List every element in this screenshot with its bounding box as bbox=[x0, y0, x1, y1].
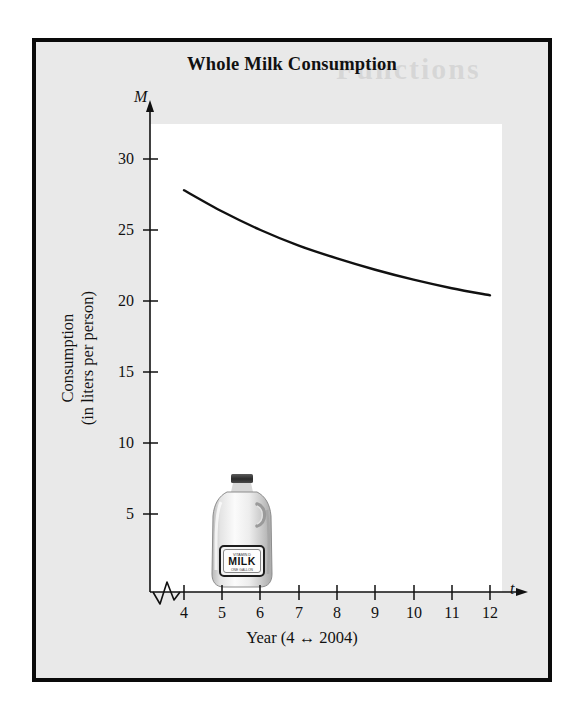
x-axis-break-zigzag bbox=[153, 582, 180, 604]
y-tick-label-10: 10 bbox=[100, 434, 134, 452]
x-tick-label-7: 7 bbox=[282, 604, 316, 622]
x-tick-label-10: 10 bbox=[397, 604, 431, 622]
y-tick-label-25: 25 bbox=[100, 221, 134, 239]
x-axis-arrowhead bbox=[516, 588, 528, 596]
y-axis-variable-label: M bbox=[134, 88, 147, 106]
x-tick-label-12: 12 bbox=[473, 604, 507, 622]
plot-stage: VITAMIN D MILK ONE GALLON bbox=[36, 42, 548, 678]
y-axis-title: Consumption (in liters per person) bbox=[58, 148, 98, 568]
x-tick-label-5: 5 bbox=[205, 604, 239, 622]
x-tick-label-6: 6 bbox=[243, 604, 277, 622]
data-series-curve bbox=[184, 190, 490, 295]
x-axis-title: Year (4 ↔ 2004) bbox=[92, 628, 512, 648]
x-axis-variable-label: t bbox=[510, 580, 514, 598]
y-tick-label-20: 20 bbox=[100, 292, 134, 310]
y-axis-title-line2: (in liters per person) bbox=[78, 148, 98, 568]
y-tick-label-30: 30 bbox=[100, 150, 134, 168]
y-tick-label-5: 5 bbox=[100, 505, 134, 523]
x-tick-label-11: 11 bbox=[435, 604, 469, 622]
y-tick-label-15: 15 bbox=[100, 363, 134, 381]
y-axis-title-line1: Consumption bbox=[58, 148, 78, 568]
figure-frame: Functions no or Whole Milk Consumption bbox=[32, 38, 552, 682]
axis-and-curve-svg bbox=[36, 42, 548, 678]
x-tick-label-4: 4 bbox=[167, 604, 201, 622]
x-tick-label-8: 8 bbox=[320, 604, 354, 622]
x-tick-label-9: 9 bbox=[358, 604, 392, 622]
